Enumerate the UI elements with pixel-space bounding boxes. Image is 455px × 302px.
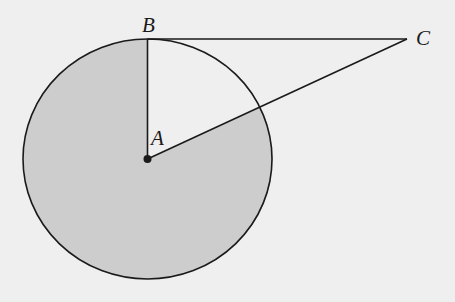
label-c: C [416, 26, 431, 50]
label-b: B [142, 13, 155, 37]
diagram-svg: B A C [0, 0, 455, 302]
center-point-a [144, 155, 152, 163]
geometry-diagram: B A C [0, 0, 455, 302]
segment-ac [148, 39, 408, 159]
label-a: A [149, 126, 164, 150]
